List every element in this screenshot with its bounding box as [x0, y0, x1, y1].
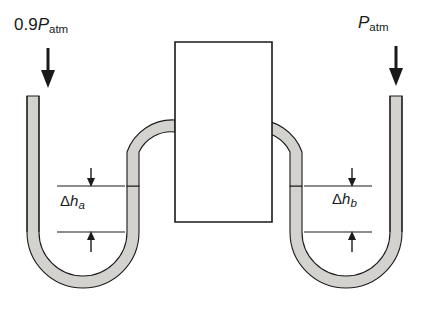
height-b-top-arrow	[348, 168, 356, 187]
height-a-subscript: a	[78, 199, 84, 211]
left-manometer-tube	[27, 96, 139, 288]
left-pressure-symbol: P	[38, 15, 49, 34]
left-manometer-inner-column	[127, 120, 175, 186]
height-b-bottom-arrow	[348, 231, 356, 252]
right-pressure-arrow	[389, 46, 403, 86]
height-a-label: Δha	[60, 193, 85, 209]
height-a-bottom-arrow	[87, 231, 95, 252]
central-duct	[175, 42, 272, 222]
right-pressure-symbol: P	[358, 13, 369, 32]
right-pressure-label: Patm	[358, 14, 389, 31]
height-a-top-arrow	[87, 168, 95, 187]
height-a-delta: Δ	[60, 192, 70, 209]
left-pressure-label: 0.9Patm	[14, 16, 68, 33]
height-b-delta: Δ	[332, 190, 342, 207]
left-pressure-arrow	[41, 48, 55, 88]
left-pressure-subscript: atm	[49, 23, 68, 35]
left-pressure-coefficient: 0.9	[14, 15, 38, 34]
manometer-diagram	[0, 0, 429, 313]
height-b-label: Δhb	[332, 191, 357, 207]
height-b-subscript: b	[350, 197, 356, 209]
right-pressure-subscript: atm	[369, 21, 388, 33]
